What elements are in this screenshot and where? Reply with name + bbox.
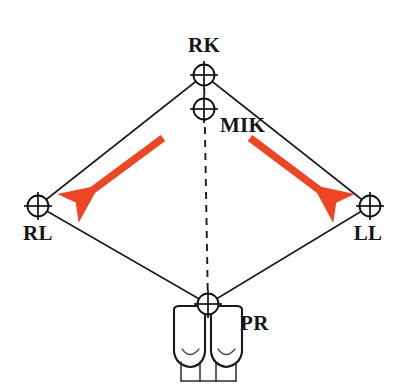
right-arrow <box>250 138 326 195</box>
left-incisor-icon <box>174 306 205 367</box>
label-rk: RK <box>188 33 220 57</box>
node-ll[interactable] <box>356 192 384 220</box>
edge-rk-ll <box>204 75 370 206</box>
label-ll: LL <box>354 221 383 245</box>
label-rl: RL <box>23 221 53 245</box>
node-mik[interactable] <box>190 95 218 123</box>
label-pr: PR <box>240 311 269 335</box>
right-incisor-icon <box>211 306 242 367</box>
diagram-canvas: RK MIK RL LL PR <box>0 0 402 390</box>
label-mik: MIK <box>220 113 266 137</box>
dental-landmark-diagram: RK MIK RL LL PR <box>0 0 402 390</box>
edge-ll-pr <box>208 206 370 304</box>
edge-rl-pr <box>38 206 208 304</box>
landmark-nodes <box>24 61 384 318</box>
edge-rk-rl <box>38 75 204 206</box>
node-rl[interactable] <box>24 192 52 220</box>
left-arrow <box>86 138 163 195</box>
node-rk[interactable] <box>190 61 218 89</box>
